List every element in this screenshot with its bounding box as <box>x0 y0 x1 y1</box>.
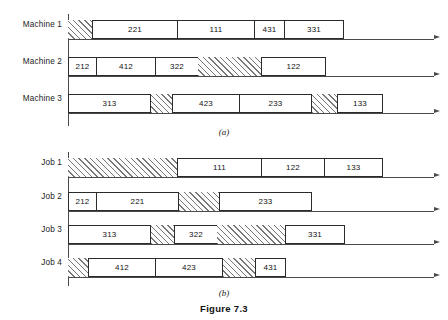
task-block: 111 <box>177 20 255 39</box>
bar-track-job-1: 111 122 133 <box>0 158 448 177</box>
gantt-figure: Machine 1 221 111 431 331 Mac <box>0 0 448 320</box>
bar-track-job-2: 212 221 233 <box>0 192 448 211</box>
task-block: 322 <box>174 225 218 244</box>
task-label: 423 <box>182 263 196 272</box>
task-label: 133 <box>347 163 361 172</box>
task-block: 212 <box>68 57 97 76</box>
task-block: 431 <box>254 20 285 39</box>
panel-caption-b: (b) <box>0 288 448 298</box>
task-block: 412 <box>88 258 156 277</box>
idle-block <box>68 258 88 277</box>
task-block: 122 <box>261 57 326 76</box>
task-label: 431 <box>263 25 277 34</box>
task-label: 221 <box>131 197 145 206</box>
panel-machine-chart: Machine 1 221 111 431 331 Mac <box>0 14 448 126</box>
chart-row: Job 3 313 322 331 <box>0 219 448 253</box>
task-block: 133 <box>337 94 383 113</box>
task-block: 331 <box>285 225 345 244</box>
task-block: 233 <box>239 94 312 113</box>
task-label: 111 <box>210 25 223 34</box>
task-block: 313 <box>68 94 151 113</box>
idle-block <box>151 225 174 244</box>
task-block: 412 <box>96 57 156 76</box>
bar-track-machine-1: 221 111 431 331 <box>0 20 448 39</box>
chart-row: Machine 3 313 423 233 133 <box>0 88 448 122</box>
chart-row: Machine 1 221 111 431 331 <box>0 14 448 48</box>
idle-block <box>223 258 255 277</box>
time-axis-job-4 <box>68 277 434 278</box>
idle-block <box>151 94 172 113</box>
time-axis-machine-1 <box>68 39 434 40</box>
figure-caption: Figure 7.3 <box>0 303 448 314</box>
task-block: 122 <box>261 158 325 177</box>
task-label: 133 <box>353 99 367 108</box>
task-block: 423 <box>172 94 240 113</box>
task-block: 212 <box>68 192 97 211</box>
task-block: 313 <box>68 225 151 244</box>
chart-row: Machine 2 212 412 322 122 <box>0 51 448 85</box>
idle-block <box>179 192 219 211</box>
task-block: 221 <box>92 20 178 39</box>
idle-block <box>198 57 261 76</box>
task-label: 322 <box>189 230 203 239</box>
chart-row: Job 4 412 423 431 <box>0 252 448 286</box>
task-block: 111 <box>177 158 262 177</box>
task-label: 331 <box>307 25 321 34</box>
task-block: 221 <box>96 192 179 211</box>
task-block: 423 <box>155 258 223 277</box>
task-block: 431 <box>255 258 286 277</box>
task-label: 221 <box>128 25 142 34</box>
idle-block <box>217 225 285 244</box>
task-label: 122 <box>286 163 300 172</box>
time-axis-machine-2 <box>68 76 434 77</box>
task-block: 233 <box>219 192 312 211</box>
task-label: 233 <box>259 197 273 206</box>
task-label: 431 <box>264 263 278 272</box>
task-label: 111 <box>213 163 226 172</box>
panel-caption-a: (a) <box>0 127 448 137</box>
bar-track-machine-2: 212 412 322 122 <box>0 57 448 76</box>
task-label: 233 <box>269 99 283 108</box>
bar-track-machine-3: 313 423 233 133 <box>0 94 448 113</box>
chart-row: Job 2 212 221 233 <box>0 186 448 220</box>
task-label: 212 <box>76 62 90 71</box>
idle-block <box>312 94 337 113</box>
task-label: 212 <box>76 197 90 206</box>
task-block: 322 <box>155 57 199 76</box>
time-axis-machine-3 <box>68 113 434 114</box>
time-axis-job-1 <box>68 177 434 178</box>
task-block: 331 <box>284 20 344 39</box>
task-label: 313 <box>103 99 117 108</box>
task-label: 412 <box>115 263 129 272</box>
task-label: 313 <box>103 230 117 239</box>
task-label: 331 <box>308 230 322 239</box>
task-label: 412 <box>119 62 133 71</box>
task-label: 122 <box>287 62 301 71</box>
panel-job-chart: Job 1 111 122 133 Job 2 <box>0 152 448 286</box>
chart-row: Job 1 111 122 133 <box>0 152 448 186</box>
task-block: 133 <box>324 158 383 177</box>
time-axis-job-3 <box>68 244 434 245</box>
idle-block <box>68 20 92 39</box>
bar-track-job-4: 412 423 431 <box>0 258 448 277</box>
task-label: 423 <box>199 99 213 108</box>
bar-track-job-3: 313 322 331 <box>0 225 448 244</box>
idle-block <box>68 158 178 177</box>
task-label: 322 <box>170 62 184 71</box>
time-axis-job-2 <box>68 211 434 212</box>
